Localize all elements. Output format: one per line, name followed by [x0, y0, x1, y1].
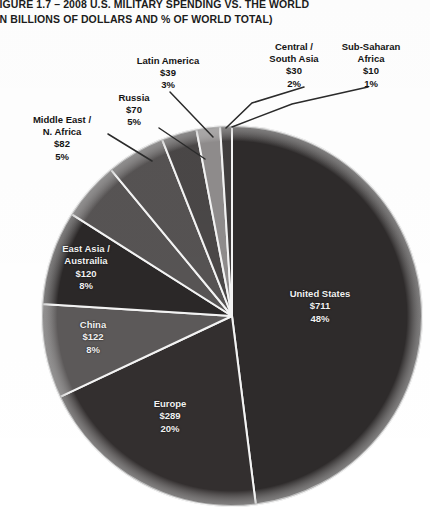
- slice-label-name: East Asia /: [34, 243, 138, 255]
- slice-label-value: $30: [258, 65, 330, 77]
- slice-label-united-states: United States $711 48%: [268, 288, 372, 325]
- slice-label-percent: 8%: [47, 344, 139, 356]
- slice-label-percent: 48%: [268, 313, 372, 325]
- slice-label-name-2: Austrailia: [34, 255, 138, 267]
- slice-label-east-asia-australia: East Asia / Austrailia $120 8%: [34, 243, 138, 293]
- slice-label-name: China: [47, 319, 139, 331]
- slice-label-percent: 3%: [122, 79, 214, 91]
- slice-label-name: Sub-Saharan: [330, 41, 412, 53]
- slice-label-value: $711: [268, 300, 372, 312]
- slice-label-europe: Europe $289 20%: [118, 398, 222, 435]
- slice-label-value: $70: [104, 104, 164, 116]
- slice-callout-russia: Russia $70 5%: [104, 92, 164, 129]
- slice-label-name-2: N. Africa: [14, 126, 110, 138]
- slice-callout-sub-saharan-africa: Sub-Saharan Africa $10 1%: [330, 41, 412, 90]
- pie-chart: Central / South Asia $30 2% Sub-Saharan …: [0, 0, 430, 526]
- slice-label-name: United States: [268, 288, 372, 300]
- leader-line-central-south-asia: [226, 87, 304, 128]
- slice-label-name-2: South Asia: [258, 53, 330, 65]
- slice-label-name: Latin America: [122, 55, 214, 67]
- slice-label-percent: 1%: [330, 78, 412, 90]
- slice-label-value: $122: [47, 331, 139, 343]
- slice-callout-central-south-asia: Central / South Asia $30 2%: [258, 41, 330, 90]
- slice-callout-latin-america: Latin America $39 3%: [122, 55, 214, 92]
- slice-label-value: $82: [14, 138, 110, 150]
- slice-label-name: Russia: [104, 92, 164, 104]
- slice-label-value: $120: [34, 268, 138, 280]
- slice-label-value: $10: [330, 65, 412, 77]
- slice-label-percent: 5%: [104, 116, 164, 128]
- slice-label-percent: 5%: [14, 151, 110, 163]
- slice-label-name: Europe: [118, 398, 222, 410]
- slice-label-value: $39: [122, 67, 214, 79]
- slice-label-name-2: Africa: [330, 53, 412, 65]
- slice-label-percent: 20%: [118, 423, 222, 435]
- slice-label-percent: 8%: [34, 280, 138, 292]
- slice-label-percent: 2%: [258, 78, 330, 90]
- slice-label-name: Central /: [258, 41, 330, 53]
- slice-label-name: Middle East /: [14, 114, 110, 126]
- slice-label-china: China $122 8%: [47, 319, 139, 356]
- slice-label-value: $289: [118, 410, 222, 422]
- slice-callout-middle-east-n-africa: Middle East / N. Africa $82 5%: [14, 114, 110, 163]
- leader-line-sub-saharan-africa: [232, 87, 368, 127]
